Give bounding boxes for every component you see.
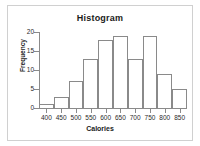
x-tick-mark	[135, 109, 136, 113]
x-tick-mark	[150, 109, 151, 113]
histogram-bar	[143, 36, 158, 108]
y-tick-label: 15	[10, 47, 34, 54]
histogram-bar	[113, 36, 128, 108]
x-tick-label: 850	[167, 114, 193, 121]
histogram-figure: Histogram Frequency 05101520 40045050055…	[0, 0, 200, 146]
x-tick-mark	[180, 109, 181, 113]
histogram-bar	[172, 89, 187, 108]
histogram-bars	[39, 32, 187, 108]
x-tick-mark	[91, 109, 92, 113]
y-tick-label: 0	[10, 104, 34, 111]
histogram-bar	[98, 40, 113, 108]
x-axis-label: Calories	[0, 125, 200, 132]
plot-area	[39, 32, 187, 108]
x-tick-mark	[61, 109, 62, 113]
y-tick-mark	[34, 108, 39, 109]
histogram-bar	[54, 97, 69, 108]
histogram-bar	[128, 59, 143, 108]
x-tick-mark	[46, 109, 47, 113]
y-tick-label: 5	[10, 85, 34, 92]
histogram-bar	[157, 74, 172, 108]
x-tick-mark	[106, 109, 107, 113]
x-tick-mark	[165, 109, 166, 113]
y-tick-label: 10	[10, 66, 34, 73]
y-tick-label: 20	[10, 28, 34, 35]
x-tick-mark	[76, 109, 77, 113]
x-tick-mark	[120, 109, 121, 113]
chart-title: Histogram	[0, 13, 200, 23]
histogram-bar	[39, 104, 54, 108]
y-axis-label: Frequency	[19, 30, 26, 82]
histogram-bar	[83, 59, 98, 108]
histogram-bar	[69, 81, 84, 108]
